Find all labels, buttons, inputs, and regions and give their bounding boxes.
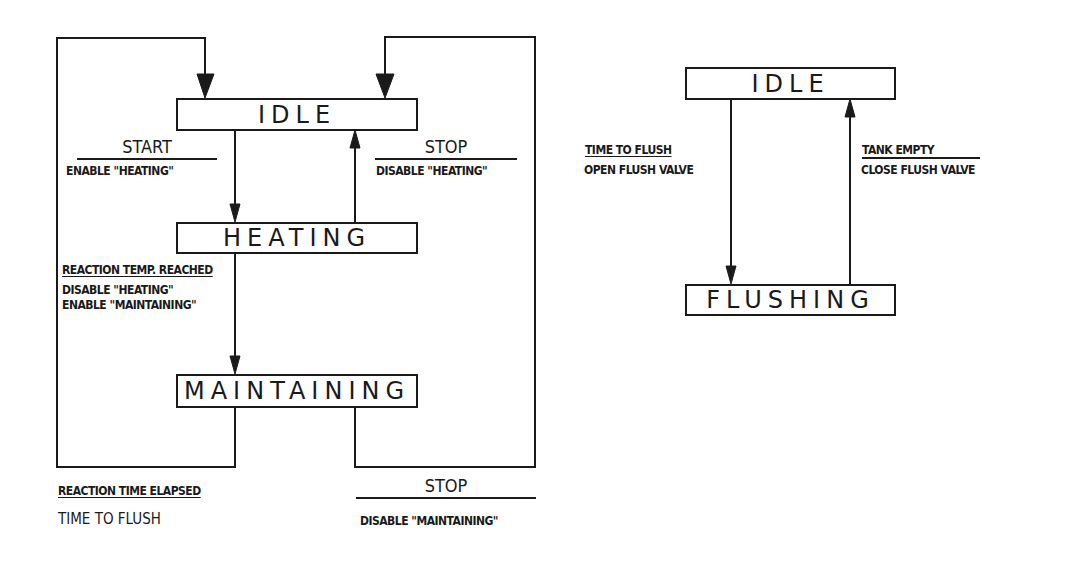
transition-action-stop-maintaining: DISABLE "MAINTAINING" [360,514,498,529]
transition-action-reaction-temp-1: DISABLE "HEATING" [62,283,173,298]
transition-event-time-to-flush: TIME TO FLUSH [585,143,671,157]
transition-action-start: ENABLE "HEATING" [66,164,173,179]
arrowhead-down-icon [230,356,240,374]
transition-event-reaction-temp: REACTION TEMP. REACHED [62,263,213,277]
state-label: HEATING [223,226,371,250]
transition-event-start: START [77,136,217,160]
arrowhead-up-icon [350,130,360,148]
state-heating: HEATING [176,222,418,254]
transition-action-reaction-time: TIME TO FLUSH [58,512,161,527]
transition-action-tank-empty: CLOSE FLUSH VALVE [861,163,975,178]
arrowhead-down-icon [230,204,240,222]
transition-event-stop-heating: STOP [375,136,517,160]
arrowhead-down-icon [726,266,736,284]
state-label: MAINTAINING [184,379,410,403]
transition-action-reaction-temp-2: ENABLE "MAINTAINING" [62,298,196,313]
state-idle-reactor: IDLE [176,98,418,131]
state-label: FLUSHING [706,288,874,312]
transition-event-tank-empty: TANK EMPTY [862,143,980,159]
transition-action-stop-heating: DISABLE "HEATING" [376,164,487,179]
state-label: IDLE [751,72,829,96]
state-label: IDLE [258,103,336,127]
state-maintaining: MAINTAINING [176,374,418,408]
state-flushing: FLUSHING [685,284,896,316]
arrowhead-down-icon [376,74,394,98]
arrowhead-up-icon [845,99,855,117]
arrowhead-down-icon [197,74,214,98]
transition-event-stop-maintaining: STOP [356,475,536,499]
transition-event-reaction-time: REACTION TIME ELAPSED [58,484,201,498]
state-idle-flush: IDLE [685,67,896,100]
transition-action-time-to-flush: OPEN FLUSH VALVE [584,163,693,178]
